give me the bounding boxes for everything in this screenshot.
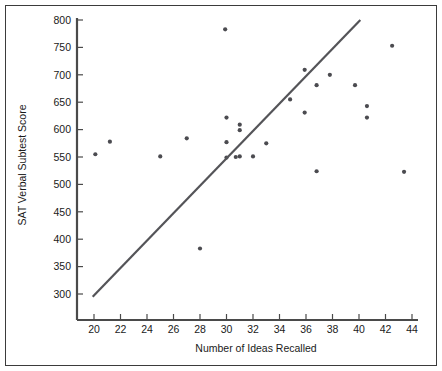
- data-point: [223, 27, 227, 31]
- data-points-group: [93, 27, 406, 250]
- data-point: [303, 111, 307, 115]
- x-tick-label: 44: [406, 323, 418, 335]
- y-tick-label: 550: [53, 151, 71, 163]
- x-tick-label: 22: [115, 323, 127, 335]
- data-point: [365, 104, 369, 108]
- data-point: [238, 154, 242, 158]
- data-point: [158, 154, 162, 158]
- y-tick-label: 450: [53, 206, 71, 218]
- y-tick-label: 300: [53, 288, 71, 300]
- data-point: [288, 97, 292, 101]
- y-tick-label: 700: [53, 69, 71, 81]
- data-point: [402, 170, 406, 174]
- data-point: [224, 115, 228, 119]
- data-point: [234, 155, 238, 159]
- data-point: [264, 141, 268, 145]
- data-point: [353, 83, 357, 87]
- data-point: [198, 246, 202, 250]
- data-point: [238, 128, 242, 132]
- data-point: [303, 68, 307, 72]
- x-tick-label: 28: [194, 323, 206, 335]
- x-tick-label: 26: [168, 323, 180, 335]
- data-point: [365, 115, 369, 119]
- data-point: [93, 152, 97, 156]
- plot-canvas: 300350400450500550600650700750800 202224…: [0, 0, 442, 371]
- x-tick-label: 42: [380, 323, 392, 335]
- x-tick-label: 38: [327, 323, 339, 335]
- data-point: [238, 123, 242, 127]
- y-tick-label: 350: [53, 260, 71, 272]
- y-axis: 300350400450500550600650700750800: [53, 14, 83, 320]
- trend-line-group: [93, 20, 361, 297]
- data-point: [390, 44, 394, 48]
- data-point: [315, 83, 319, 87]
- y-tick-label: 600: [53, 123, 71, 135]
- data-point: [108, 140, 112, 144]
- data-point: [315, 169, 319, 173]
- data-point: [224, 140, 228, 144]
- scatter-plot-figure: 300350400450500550600650700750800 202224…: [0, 0, 442, 371]
- y-axis-title: SAT Verbal Subtest Score: [16, 104, 28, 225]
- x-tick-label: 24: [141, 323, 153, 335]
- regression-line: [93, 20, 361, 297]
- x-axis: 20222426283032343638404244: [77, 314, 418, 335]
- y-tick-label: 650: [53, 96, 71, 108]
- x-tick-label: 34: [274, 323, 286, 335]
- x-tick-label: 30: [221, 323, 233, 335]
- x-axis-title: Number of Ideas Recalled: [195, 342, 317, 354]
- data-point: [251, 154, 255, 158]
- x-tick-label: 40: [353, 323, 365, 335]
- data-point: [328, 73, 332, 77]
- y-tick-label: 500: [53, 178, 71, 190]
- y-tick-label: 800: [53, 14, 71, 26]
- data-point: [185, 136, 189, 140]
- y-tick-label: 400: [53, 233, 71, 245]
- y-tick-label: 750: [53, 41, 71, 53]
- x-tick-label: 36: [300, 323, 312, 335]
- x-tick-label: 20: [88, 323, 100, 335]
- x-tick-label: 32: [247, 323, 259, 335]
